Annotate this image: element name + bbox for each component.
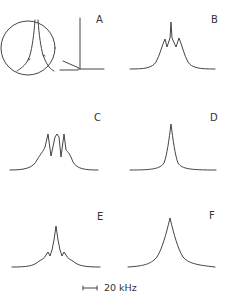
panel-label-f: F: [209, 211, 215, 221]
panel-e-spectrum: [12, 226, 100, 267]
scale-bar: [83, 286, 97, 290]
panel-label-b: B: [211, 15, 218, 25]
magnified-inset-circle: [1, 21, 55, 75]
panel-label-c: C: [94, 113, 101, 123]
panel-label-e: E: [97, 212, 103, 222]
panel-f-spectrum: [128, 218, 215, 267]
panel-a-spectrum: [1, 18, 104, 75]
panel-b-spectrum: [130, 22, 215, 69]
scale-bar-label: 20 kHz: [104, 283, 137, 293]
panel-d-spectrum: [130, 124, 216, 170]
spectra-figure: [0, 0, 229, 301]
panel-label-a: A: [96, 15, 103, 25]
panel-label-d: D: [210, 113, 218, 123]
inset-pointer-arrow: [63, 61, 79, 68]
panel-c-spectrum: [10, 134, 98, 170]
